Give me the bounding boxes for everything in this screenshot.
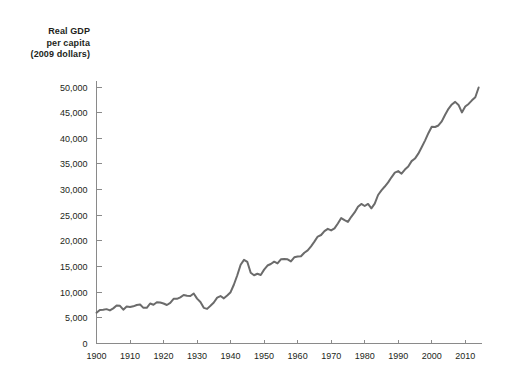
x-tick-label: 1990 — [388, 351, 408, 361]
line-chart-plot: 05,00010,00015,00020,00025,00030,00035,0… — [0, 0, 508, 383]
x-tick-label: 2000 — [422, 351, 442, 361]
x-tick-label: 1900 — [86, 351, 106, 361]
y-tick-label: 15,000 — [60, 262, 88, 272]
y-tick-label: 25,000 — [60, 211, 88, 221]
x-tick-label: 1980 — [355, 351, 375, 361]
x-tick-label: 1960 — [288, 351, 308, 361]
y-tick-label: 35,000 — [60, 159, 88, 169]
x-tick-label: 2010 — [455, 351, 475, 361]
x-axis-ticks: 1900191019201930194019501960197019801990… — [86, 340, 475, 361]
gdp-per-capita-line — [97, 88, 479, 313]
x-tick-label: 1930 — [187, 351, 207, 361]
y-tick-label: 5,000 — [65, 313, 88, 323]
y-tick-label: 45,000 — [60, 108, 88, 118]
y-axis-ticks: 05,00010,00015,00020,00025,00030,00035,0… — [60, 83, 102, 350]
x-tick-label: 1910 — [120, 351, 140, 361]
y-tick-label: 10,000 — [60, 288, 88, 298]
x-tick-label: 1920 — [154, 351, 174, 361]
y-tick-label: 50,000 — [60, 83, 88, 93]
chart-figure: Real GDP per capita (2009 dollars) 05,00… — [0, 0, 508, 383]
y-tick-label: 40,000 — [60, 134, 88, 144]
y-tick-label: 0 — [82, 339, 87, 349]
x-tick-label: 1950 — [254, 351, 274, 361]
y-tick-label: 30,000 — [60, 185, 88, 195]
x-tick-label: 1970 — [321, 351, 341, 361]
x-tick-label: 1940 — [221, 351, 241, 361]
y-tick-label: 20,000 — [60, 236, 88, 246]
